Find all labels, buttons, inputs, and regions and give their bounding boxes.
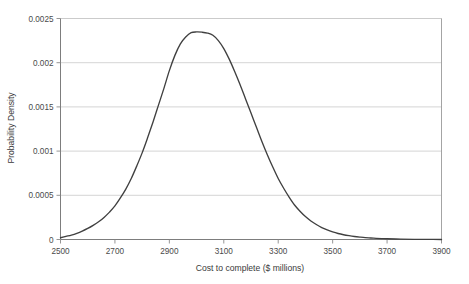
y-tick-label-2: 0.001 bbox=[33, 147, 54, 156]
x-tick-label-6: 3700 bbox=[378, 247, 397, 256]
x-axis-title: Cost to complete ($ millions) bbox=[196, 263, 305, 273]
x-tick-label-0: 2500 bbox=[51, 247, 70, 256]
y-tick-label-5: 0.0025 bbox=[28, 15, 53, 24]
x-tick-label-5: 3500 bbox=[324, 247, 343, 256]
y-axis-title: Probability Density bbox=[6, 92, 16, 164]
x-tick-label-1: 2700 bbox=[106, 247, 125, 256]
y-tick-label-1: 0.0005 bbox=[28, 191, 53, 200]
x-tick-label-4: 3300 bbox=[269, 247, 288, 256]
chart-canvas: 25002700290031003300350037003900 00.0005… bbox=[0, 0, 469, 284]
chart-background bbox=[0, 0, 469, 284]
probability-density-chart: 25002700290031003300350037003900 00.0005… bbox=[0, 0, 469, 284]
x-tick-label-2: 2900 bbox=[160, 247, 179, 256]
y-tick-label-3: 0.0015 bbox=[28, 103, 53, 112]
y-tick-label-4: 0.002 bbox=[33, 59, 54, 68]
x-tick-label-7: 3900 bbox=[432, 247, 451, 256]
y-tick-label-0: 0 bbox=[49, 236, 54, 245]
x-tick-label-3: 3100 bbox=[215, 247, 234, 256]
